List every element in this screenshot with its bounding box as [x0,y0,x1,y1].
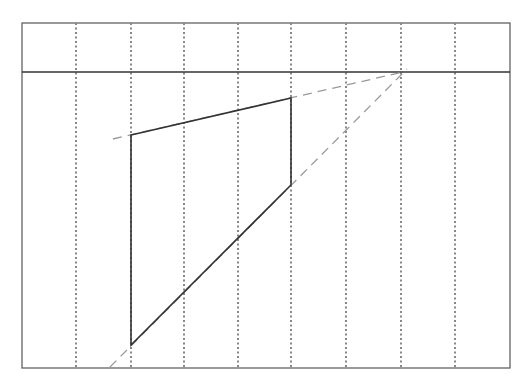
perspective-diagram [0,0,527,389]
frame-border [22,23,510,368]
receding-plane-shape [131,98,291,345]
diagram-canvas [0,0,527,389]
vertical-guide-lines [76,23,455,368]
